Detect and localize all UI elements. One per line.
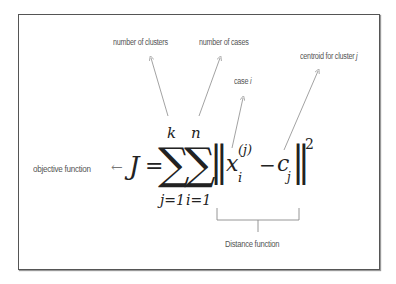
formula-lhs-J: J: [129, 151, 139, 181]
arrow-case-i: [232, 98, 243, 148]
distance-bracket: [217, 208, 299, 232]
case-i-var: i: [250, 76, 251, 86]
formula-power: 2: [305, 136, 314, 152]
centroid-var: j: [356, 51, 357, 61]
arrow-cases: [199, 58, 220, 116]
label-case-i: case i: [234, 76, 251, 86]
formula-x-sub: i: [238, 170, 242, 185]
left-arrow-icon: ←: [111, 159, 123, 175]
label-number-of-cases: number of cases: [199, 37, 249, 47]
label-centroid: centroid for cluster j: [300, 51, 357, 61]
label-objective-function: objective function: [33, 163, 91, 174]
formula-c-sub: j: [287, 170, 291, 184]
formula-minus: −: [259, 153, 276, 177]
sum2-lower: i=1: [186, 192, 211, 208]
case-i-prefix: case: [234, 76, 248, 86]
centroid-prefix: centroid for cluster: [300, 51, 354, 61]
formula-x-sup: (j): [238, 142, 252, 157]
label-number-of-clusters: number of clusters: [113, 37, 168, 47]
label-distance-function: Distance function: [225, 239, 279, 249]
formula-x: x: [226, 151, 238, 176]
sum1-lower: j=1: [160, 192, 185, 208]
arrow-clusters: [151, 58, 168, 116]
